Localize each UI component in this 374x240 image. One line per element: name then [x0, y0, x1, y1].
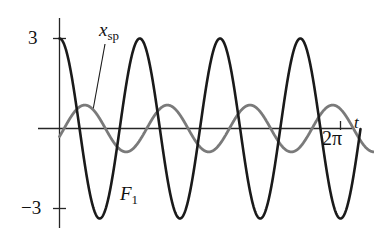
x-axis-label: t [354, 114, 359, 131]
ytick-label-3: 3 [28, 28, 38, 47]
curve-label-f1-sub: 1 [132, 192, 138, 207]
curve-label-f1: F1 [120, 184, 138, 207]
curve-label-f1-main: F [120, 183, 132, 204]
curve-label-xsp: xsp [99, 20, 119, 43]
ytick-label-neg3: −3 [21, 198, 41, 217]
curve-label-xsp-sub: sp [107, 28, 118, 43]
xsp-leader-line [93, 44, 105, 110]
xtick-label-2pi: 2π [322, 128, 342, 148]
figure-canvas [0, 0, 374, 240]
